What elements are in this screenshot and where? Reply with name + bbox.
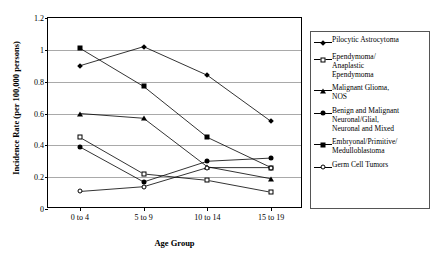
plot-area: 1.210.80.60.40.20 0 to 45 to 910 to 1415… — [47, 17, 302, 208]
x-tick-label: 15 to 19 — [258, 213, 284, 222]
series-line — [80, 114, 271, 179]
y-tick-label: 0 — [40, 205, 44, 214]
filled-circle-marker-icon — [77, 144, 82, 149]
legend-item[interactable]: Germ Cell Tumors — [314, 161, 426, 173]
filled-diamond-marker-icon — [320, 40, 326, 46]
open-square-marker-icon — [205, 178, 210, 183]
filled-triangle-marker-icon — [320, 88, 326, 93]
legend-label: Malignant Glioma, NOS — [332, 84, 389, 102]
legend-label: Germ Cell Tumors — [332, 161, 388, 170]
legend-label: Pilocytic Astrocytoma — [332, 36, 399, 45]
series-line — [80, 137, 271, 192]
filled-square-marker-icon — [141, 84, 146, 89]
open-circle-marker-icon — [77, 189, 82, 194]
open-square-marker-icon — [141, 171, 146, 176]
open-square-marker-icon — [77, 135, 82, 140]
legend-label: Embryonal/Primitive/ Medulloblastoma — [332, 138, 397, 156]
filled-triangle-marker-icon — [141, 116, 147, 121]
open-circle-marker-icon — [141, 184, 146, 189]
filled-square-marker-icon — [321, 142, 326, 147]
y-tick-label: 0.4 — [34, 141, 44, 150]
open-square-marker-icon — [321, 57, 326, 62]
legend-item[interactable]: Pilocytic Astrocytoma — [314, 36, 426, 48]
open-circle-marker-icon — [205, 165, 210, 170]
legend-marker — [314, 108, 332, 119]
legend-label: Ependymoma/ Anaplastic Ependymoma — [332, 53, 376, 79]
legend-item[interactable]: Embryonal/Primitive/ Medulloblastoma — [314, 138, 426, 156]
open-square-marker-icon — [269, 190, 274, 195]
y-tick-label: 1 — [40, 45, 44, 54]
filled-circle-marker-icon — [205, 159, 210, 164]
legend-item[interactable]: Benign and Malignant Neuronal/Glial, Neu… — [314, 107, 426, 133]
legend-marker — [314, 54, 332, 65]
series-line — [80, 147, 271, 182]
filled-square-marker-icon — [77, 46, 82, 51]
open-circle-marker-icon — [321, 165, 326, 170]
x-axis-label: Age Group — [47, 238, 302, 248]
y-tick-label: 0.2 — [34, 173, 44, 182]
legend-item[interactable]: Ependymoma/ Anaplastic Ependymoma — [314, 53, 426, 79]
legend-label: Benign and Malignant Neuronal/Glial, Neu… — [332, 107, 399, 133]
y-tick-mark — [45, 209, 48, 210]
filled-triangle-marker-icon — [268, 176, 274, 181]
series-lines — [48, 18, 303, 209]
y-axis-label: Incidence Rate (per 100,000 persons) — [11, 13, 21, 203]
filled-circle-marker-icon — [269, 156, 274, 161]
legend-marker — [314, 85, 332, 96]
series-line — [80, 47, 271, 122]
legend-item[interactable]: Malignant Glioma, NOS — [314, 84, 426, 102]
legend-marker — [314, 139, 332, 150]
filled-square-marker-icon — [205, 135, 210, 140]
y-tick-label: 1.2 — [34, 14, 44, 23]
y-tick-label: 0.6 — [34, 109, 44, 118]
chart-container: Incidence Rate (per 100,000 persons) 1.2… — [0, 0, 435, 260]
open-circle-marker-icon — [269, 165, 274, 170]
legend-marker — [314, 37, 332, 48]
x-tick-label: 10 to 14 — [194, 213, 220, 222]
filled-triangle-marker-icon — [77, 111, 83, 116]
x-tick-label: 5 to 9 — [135, 213, 153, 222]
chart-legend: Pilocytic AstrocytomaEpendymoma/ Anaplas… — [310, 31, 430, 209]
legend-marker — [314, 162, 332, 173]
x-tick-label: 0 to 4 — [71, 213, 89, 222]
y-tick-label: 0.8 — [34, 77, 44, 86]
series-line — [80, 48, 271, 167]
filled-circle-marker-icon — [321, 111, 326, 116]
